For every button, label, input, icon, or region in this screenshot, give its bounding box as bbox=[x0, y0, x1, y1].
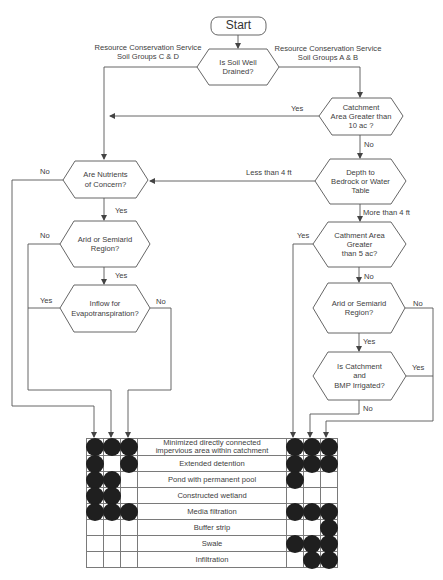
right-path-cell bbox=[321, 536, 338, 552]
nutrients-text: Are Nutrientsof Concern? bbox=[66, 161, 145, 198]
bmp-label: Swale bbox=[138, 536, 287, 552]
recommended-dot-icon bbox=[86, 438, 104, 456]
recommended-dot-icon bbox=[86, 471, 104, 489]
recommended-dot-icon bbox=[120, 503, 138, 521]
recommended-dot-icon bbox=[103, 487, 121, 505]
bmp-row: Constructed wetland bbox=[87, 488, 338, 504]
recommended-dot-icon bbox=[320, 551, 338, 569]
left-path-cell bbox=[87, 439, 104, 456]
recommended-dot-icon bbox=[286, 535, 304, 553]
arid-left-no-label: No bbox=[40, 231, 50, 240]
right-path-cell bbox=[287, 504, 304, 520]
recommended-dot-icon bbox=[103, 471, 121, 489]
catchment-10-text: CatchmentArea Greater than10 ac ? bbox=[322, 98, 400, 135]
left-path-cell bbox=[87, 520, 104, 536]
right-path-cell bbox=[304, 472, 321, 488]
arid-left-yes-label: Yes bbox=[115, 271, 127, 280]
recommended-dot-icon bbox=[320, 519, 338, 537]
arid-right-no-label: No bbox=[413, 299, 423, 308]
right-path-cell bbox=[304, 536, 321, 552]
left-path-cell bbox=[121, 520, 138, 536]
recommended-dot-icon bbox=[303, 455, 321, 473]
bmp-row: Media filtration bbox=[87, 504, 338, 520]
recommended-dot-icon bbox=[320, 535, 338, 553]
recommended-dot-icon bbox=[286, 503, 304, 521]
right-path-cell bbox=[321, 488, 338, 504]
recommended-dot-icon bbox=[303, 503, 321, 521]
right-path-cell bbox=[304, 456, 321, 472]
right-path-cell bbox=[304, 504, 321, 520]
nutrients-yes-label: Yes bbox=[115, 206, 127, 215]
left-path-cell bbox=[87, 552, 104, 568]
recommended-dot-icon bbox=[320, 455, 338, 473]
left-path-cell bbox=[104, 439, 121, 456]
recommended-dot-icon bbox=[320, 438, 338, 456]
bmp-row: Extended detention bbox=[87, 456, 338, 472]
left-path-cell bbox=[87, 472, 104, 488]
catchment10-yes-label: Yes bbox=[291, 104, 303, 113]
recommended-dot-icon bbox=[303, 438, 321, 456]
recommended-dot-icon bbox=[120, 438, 138, 456]
recommended-dot-icon bbox=[86, 455, 104, 473]
right-path-cell bbox=[321, 504, 338, 520]
bmp-label: Infiltration bbox=[138, 552, 287, 568]
recommended-dot-icon bbox=[303, 535, 321, 553]
left-path-cell bbox=[121, 504, 138, 520]
right-path-cell bbox=[321, 520, 338, 536]
inflow-no-label: No bbox=[156, 297, 166, 306]
left-path-cell bbox=[121, 488, 138, 504]
soil-drained-text: Is Soil WellDrained? bbox=[205, 49, 271, 85]
bmp-label: Extended detention bbox=[138, 456, 287, 472]
arid-left-text: Arid or SemiaridRegion? bbox=[63, 221, 147, 267]
left-path-cell bbox=[104, 472, 121, 488]
depth-text: Depth toBedrock or WaterTable bbox=[318, 159, 403, 204]
recommended-dot-icon bbox=[120, 455, 138, 473]
inflow-text: Inflow forEvapotranspiration? bbox=[63, 285, 147, 332]
right-path-cell bbox=[287, 456, 304, 472]
right-path-cell bbox=[321, 552, 338, 568]
left-path-cell bbox=[104, 520, 121, 536]
bmp-row: Pond with permanent pool bbox=[87, 472, 338, 488]
recommended-dot-icon bbox=[86, 503, 104, 521]
catchment-5-text: Cathment AreaGreaterthan 5 ac? bbox=[316, 222, 403, 267]
right-path-cell bbox=[287, 472, 304, 488]
catchment10-no-label: No bbox=[364, 140, 374, 149]
right-path-cell bbox=[304, 520, 321, 536]
left-path-cell bbox=[87, 488, 104, 504]
catchment5-no-label: No bbox=[364, 272, 374, 281]
left-path-cell bbox=[104, 504, 121, 520]
right-path-cell bbox=[321, 456, 338, 472]
bmp-label: Minimized directly connectedimpervious a… bbox=[138, 439, 287, 456]
nutrients-no-label: No bbox=[40, 167, 50, 176]
left-path-cell bbox=[87, 456, 104, 472]
bmp-label: Media filtration bbox=[138, 504, 287, 520]
left-path-cell bbox=[121, 536, 138, 552]
soil-ab-label: Resource Conservation ServiceSoil Groups… bbox=[268, 44, 388, 62]
bmp-row: Swale bbox=[87, 536, 338, 552]
right-path-cell bbox=[304, 488, 321, 504]
right-path-cell bbox=[321, 472, 338, 488]
right-path-cell bbox=[287, 520, 304, 536]
left-path-cell bbox=[104, 552, 121, 568]
arid-right-yes-label: Yes bbox=[363, 337, 375, 346]
left-path-cell bbox=[121, 472, 138, 488]
right-path-cell bbox=[287, 488, 304, 504]
recommended-dot-icon bbox=[303, 551, 321, 569]
depth-more-label: More than 4 ft bbox=[363, 208, 410, 217]
left-path-cell bbox=[121, 552, 138, 568]
left-path-cell bbox=[104, 456, 121, 472]
bmp-label: Buffer strip bbox=[138, 520, 287, 536]
left-path-cell bbox=[87, 504, 104, 520]
right-path-cell bbox=[287, 536, 304, 552]
irrigated-yes-label: Yes bbox=[412, 363, 424, 372]
recommended-dot-icon bbox=[286, 455, 304, 473]
bmp-label: Pond with permanent pool bbox=[138, 472, 287, 488]
start-label: Start bbox=[211, 17, 266, 35]
bmp-row: Minimized directly connectedimpervious a… bbox=[87, 439, 338, 456]
inflow-yes-label: Yes bbox=[40, 296, 52, 305]
bmp-selection-table: Minimized directly connectedimpervious a… bbox=[86, 438, 338, 568]
left-path-cell bbox=[121, 456, 138, 472]
left-path-cell bbox=[87, 536, 104, 552]
bmp-label: Constructed wetland bbox=[138, 488, 287, 504]
recommended-dot-icon bbox=[86, 487, 104, 505]
